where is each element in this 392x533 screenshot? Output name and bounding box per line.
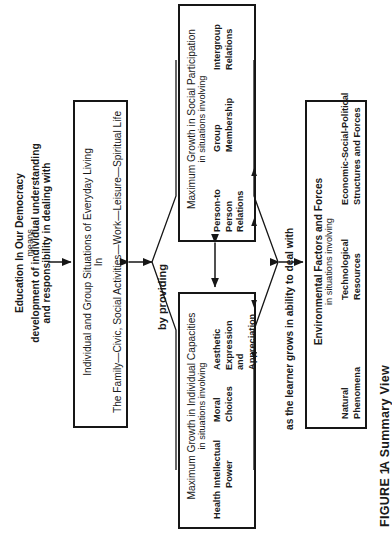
social-participation-subtitle: in situations involving [197,6,207,232]
item-line: Person-to [212,162,224,232]
individual-capacities-subtitle: in situations involving [197,293,207,519]
item-line: Person [224,162,236,232]
item-line: Natural [340,339,352,419]
item-line: Relations [235,162,247,232]
figure-caption-text: A Summary View [378,365,392,470]
intro-line-3: development of individual understanding [30,93,41,393]
environmental-factors-subtitle: in situations involving [324,104,334,419]
item-line: Resources [352,220,364,300]
everyday-living-title: Individual and Group Situations of Every… [82,106,93,418]
item-line: Group [212,82,224,152]
bracket-left-upper [152,60,176,262]
individual-capacities-title: Maximum Growth in Individual Capacities [186,293,197,519]
intro-text-block-2: development of individual understanding … [30,93,52,393]
everyday-living-title-group: Individual and Group Situations of Every… [82,106,104,418]
item-line: Intergroup [212,0,224,70]
item-line: Membership [224,82,236,152]
social-participation-title: Maximum Growth in Social Participation [186,6,197,232]
everyday-living-detail-group: The Family—Civic, Social Activities—Work… [112,106,123,418]
social-participation-item-person-to-person: Person-to Person Relations [212,162,247,232]
environmental-factors-title: Environmental Factors and Forces [313,104,324,419]
everyday-living-detail: The Family—Civic, Social Activities—Work… [112,106,123,418]
label-by-providing: by providing [156,264,168,330]
social-participation-item-intergroup-relations: Intergroup Relations [212,0,235,70]
intro-line-4: and responsibility in dealing with [41,93,52,393]
item-line: and [235,290,247,370]
environmental-factors-item-natural-phenomena: Natural Phenomena [340,339,363,419]
label-as-learner-grows: as the learner grows in ability to deal … [284,228,295,430]
item-line: Structures and Forces [352,75,364,205]
environmental-factors-item-technological-resources: Technological Resources [340,220,363,300]
item-line: Expression [224,290,236,370]
item-line: Economic-Social-Political [340,75,352,205]
item-line: Appreciation [247,290,259,370]
item-line: Technological [340,220,352,300]
environmental-factors-item-economic-social-political: Economic-Social-Political Structures and… [340,75,363,205]
intro-line-1: Education In Our Democracy [14,93,25,393]
everyday-living-connector: In [93,106,104,418]
item-line: Power [224,418,236,488]
individual-capacities-heading: Maximum Growth in Individual Capacities … [186,293,207,519]
individual-capacities-item-aesthetic-expression: Aesthetic Expression and Appreciation [212,290,258,370]
social-participation-heading: Maximum Growth in Social Participation i… [186,6,207,232]
item-line: Relations [224,0,236,70]
item-line: Phenomena [352,339,364,419]
item-line: Intellectual [212,418,224,488]
bracket-right-upper [254,60,278,262]
social-participation-item-group-membership: Group Membership [212,82,235,152]
item-line: Aesthetic [212,290,224,370]
environmental-factors-heading: Environmental Factors and Forces in situ… [313,104,334,419]
individual-capacities-item-intellectual-power: Intellectual Power [212,418,235,488]
figure-caption-label: FIGURE 1 [378,467,392,527]
